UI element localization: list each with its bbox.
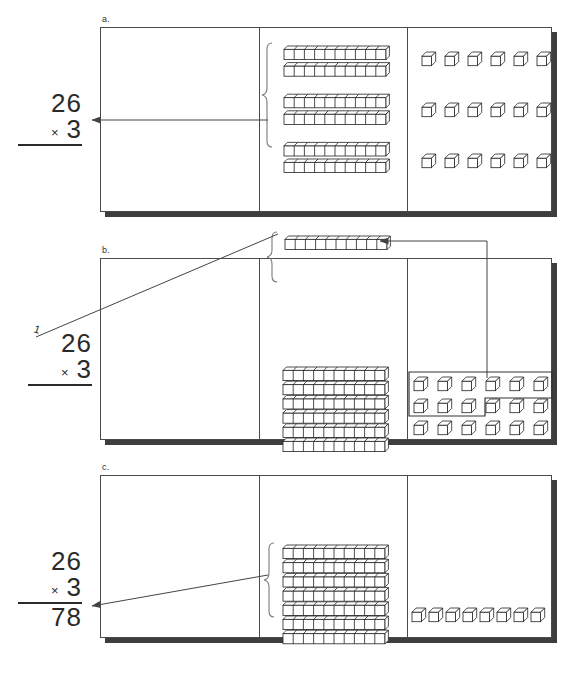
- panel-c-multiplicand-row: 26: [18, 548, 82, 574]
- panel-c-divider-1: [259, 475, 260, 638]
- panel-a-divider-2: [407, 27, 408, 212]
- panel-c-multiplier: 3: [67, 574, 82, 600]
- panel-b-rule: [28, 384, 92, 386]
- panel-a-operator: ×: [51, 126, 59, 142]
- panel-c-operator: ×: [51, 584, 59, 600]
- panel-b-arrow-to-rod: [380, 241, 487, 245]
- panel-c-product-row: 78: [18, 604, 82, 630]
- panel-a-multiplicand: 26: [51, 90, 82, 116]
- panel-c-frame: [100, 475, 552, 638]
- panel-c-expression: 26 × 3 78: [18, 548, 82, 630]
- regrouped-ten-rod: [285, 236, 390, 250]
- panel-a-divider-1: [259, 27, 260, 212]
- panel-b-divider-2: [407, 258, 408, 440]
- base-ten-multiplication-figure: a. 26 × 3 b. 1 26: [0, 0, 574, 678]
- panel-c-divider-2: [407, 475, 408, 638]
- panel-a-rule: [18, 144, 82, 146]
- panel-b-multiplier: 3: [77, 356, 92, 382]
- panel-a-multiplier: 3: [67, 116, 82, 142]
- panel-a-label: a.: [102, 14, 110, 24]
- panel-b-label: b.: [102, 245, 110, 255]
- panel-b-expression: 1 26 × 3: [28, 330, 92, 386]
- panel-b-multiplier-row: × 3: [28, 356, 92, 382]
- panel-c-multiplier-row: × 3: [18, 574, 82, 600]
- panel-a-expression: 26 × 3: [18, 90, 82, 146]
- panel-b-multiplicand: 26: [61, 330, 92, 356]
- panel-c-product: 78: [51, 604, 82, 630]
- panel-a-frame: [100, 27, 552, 212]
- panel-c-multiplicand: 26: [51, 548, 82, 574]
- panel-a-multiplicand-row: 26: [18, 90, 82, 116]
- panel-b: b.: [100, 258, 552, 440]
- panel-b-divider-1: [259, 258, 260, 440]
- panel-b-frame: [100, 258, 552, 440]
- panel-a: a.: [100, 27, 552, 212]
- panel-c-label: c.: [102, 462, 109, 472]
- panel-b-operator: ×: [61, 366, 69, 382]
- panel-c: c.: [100, 475, 552, 638]
- panel-a-multiplier-row: × 3: [18, 116, 82, 142]
